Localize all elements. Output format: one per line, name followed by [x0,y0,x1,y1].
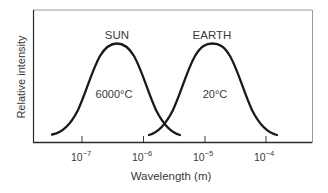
x-tick-label-1: 10−7 [71,149,91,163]
earth-label: EARTH [193,29,232,41]
y-axis-label: Relative intensity [15,35,27,119]
x-tick-label-4: 10−4 [254,149,274,163]
x-tick-label-2: 10−6 [132,149,152,163]
earth-temperature-label: 20°C [203,88,228,100]
x-axis-label: Wavelength (m) [131,170,212,182]
x-axis-ticks [82,136,266,142]
x-tick-label-3: 10−5 [193,149,213,163]
x-tick-labels: 10−7 10−6 10−5 10−4 [71,149,274,163]
blackbody-spectrum-chart: 10−7 10−6 10−5 10−4 Wavelength (m) Relat… [0,0,328,193]
sun-temperature-label: 6000°C [96,88,133,100]
sun-label: SUN [105,29,129,41]
chart-svg: 10−7 10−6 10−5 10−4 Wavelength (m) Relat… [0,0,328,193]
